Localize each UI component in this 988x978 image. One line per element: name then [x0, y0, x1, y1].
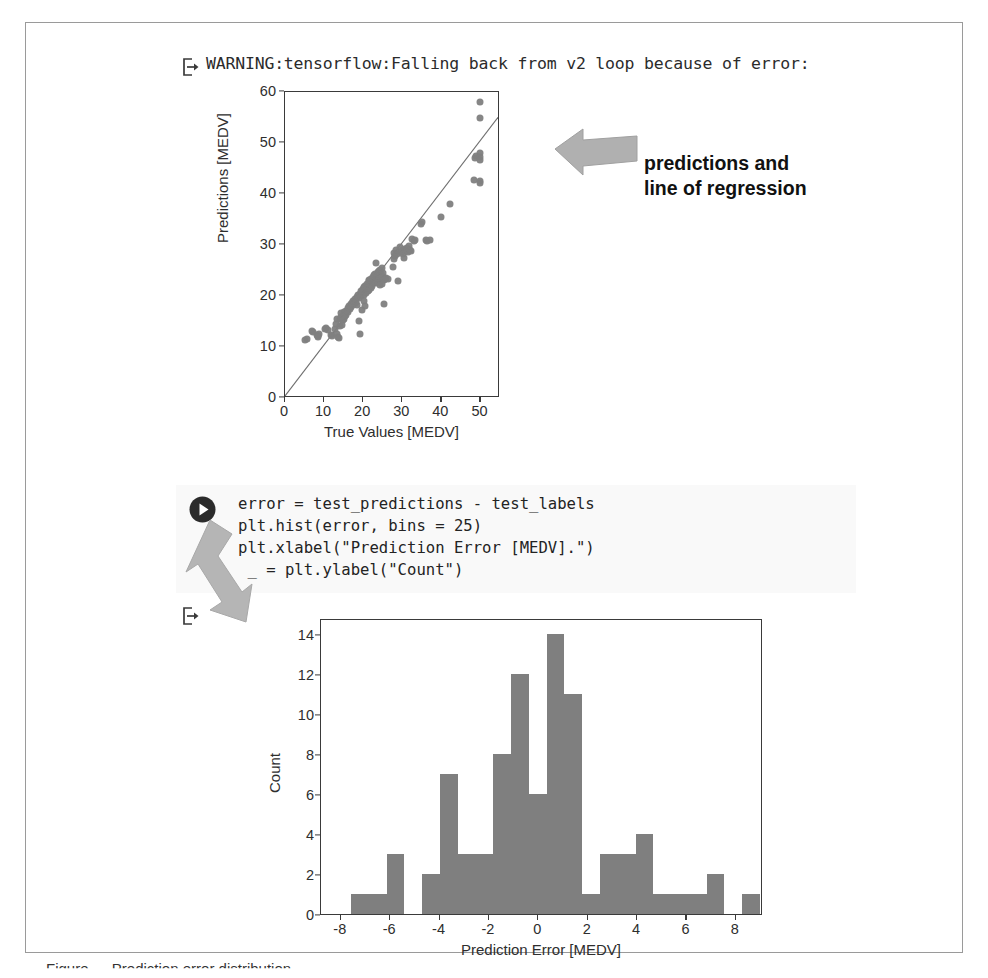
scatter-y-tick-label: 50 [230, 134, 276, 150]
output-arrow-icon [180, 56, 202, 78]
scatter-plot-area [284, 91, 499, 397]
histogram-x-tick-label: 0 [533, 921, 541, 937]
histogram-x-tick-mark [340, 915, 341, 920]
scatter-point [477, 179, 484, 186]
histogram-y-tick-mark [315, 874, 320, 875]
scatter-point [401, 255, 408, 262]
figure-caption: Figure — Prediction error distribution [46, 960, 291, 977]
scatter-x-tick-mark [362, 397, 363, 402]
histogram-x-tick-mark [439, 915, 440, 920]
scatter-x-tick-mark [284, 397, 285, 402]
histogram-x-tick-mark [685, 915, 686, 920]
scatter-point [477, 99, 484, 106]
histogram-bar [671, 894, 689, 914]
scatter-point [380, 301, 387, 308]
scatter-y-tick-label: 40 [230, 185, 276, 201]
scatter-x-tick-mark [323, 397, 324, 402]
scatter-point [447, 201, 454, 208]
histogram-x-tick-mark [636, 915, 637, 920]
histogram-x-tick-mark [488, 915, 489, 920]
scatter-y-tick-mark [279, 90, 284, 91]
scatter-x-tick-label: 50 [471, 403, 487, 419]
scatter-point [355, 317, 362, 324]
scatter-point [389, 264, 396, 271]
histogram-bar [618, 854, 636, 914]
histogram-y-tick-label: 12 [274, 667, 314, 683]
histogram-bar [476, 854, 494, 914]
histogram-y-tick-mark [315, 834, 320, 835]
scatter-x-tick-mark [479, 397, 480, 402]
histogram-bar [582, 894, 600, 914]
scatter-x-tick-label: 30 [393, 403, 409, 419]
scatter-point [385, 276, 392, 283]
histogram-y-tick-mark [315, 714, 320, 715]
scatter-point [419, 219, 426, 226]
scatter-figure: Predictions [MEDV] 0102030405060 0102030… [222, 83, 542, 433]
histogram-x-tick-label: -4 [432, 921, 445, 937]
scatter-point [357, 331, 364, 338]
scatter-x-tick-label: 20 [354, 403, 370, 419]
output-arrow-icon [180, 605, 202, 627]
scatter-x-tick-mark [401, 397, 402, 402]
histogram-y-tick-label: 8 [274, 747, 314, 763]
histogram-bar [440, 774, 458, 914]
figure-page-frame: WARNING:tensorflow:Falling back from v2 … [25, 22, 963, 953]
histogram-x-tick-label: 4 [632, 921, 640, 937]
histogram-x-tick-label: -6 [383, 921, 396, 937]
scatter-point [407, 247, 414, 254]
code-cell-source[interactable]: error = test_predictions - test_labels p… [238, 493, 595, 582]
scatter-x-tick-mark [440, 397, 441, 402]
histogram-x-tick-mark [537, 915, 538, 920]
histogram-x-tick-mark [389, 915, 390, 920]
scatter-x-axis-label: True Values [MEDV] [284, 423, 499, 440]
histogram-x-tick-mark [587, 915, 588, 920]
histogram-x-tick-label: 8 [731, 921, 739, 937]
scatter-y-tick-mark [279, 141, 284, 142]
scatter-point [395, 277, 402, 284]
histogram-x-tick-mark [735, 915, 736, 920]
scatter-y-tick-mark [279, 243, 284, 244]
scatter-point [437, 213, 444, 220]
scatter-point [477, 114, 484, 121]
histogram-bar [422, 874, 440, 914]
histogram-bar [564, 694, 582, 914]
callout-label: predictions and line of regression [644, 151, 807, 201]
histogram-bar [511, 674, 529, 914]
scatter-y-tick-label: 10 [230, 338, 276, 354]
scatter-point [335, 335, 342, 342]
histogram-bar [653, 894, 671, 914]
histogram-y-tick-label: 0 [274, 907, 314, 923]
histogram-y-tick-label: 2 [274, 867, 314, 883]
histogram-bar [387, 854, 405, 914]
scatter-x-tick-label: 40 [432, 403, 448, 419]
histogram-bar [529, 794, 547, 914]
scatter-x-tick-label: 10 [315, 403, 331, 419]
scatter-y-axis-label: Predictions [MEDV] [214, 113, 231, 243]
scatter-y-tick-mark [279, 192, 284, 193]
histogram-bar [742, 894, 760, 914]
histogram-x-tick-label: 6 [681, 921, 689, 937]
histogram-plot-area [320, 619, 762, 915]
histogram-figure: Count 02468101214 -8-6-4-202468 Predicti… [222, 615, 842, 963]
tensorflow-warning-text: WARNING:tensorflow:Falling back from v2 … [206, 54, 810, 73]
scatter-point [303, 336, 310, 343]
scatter-y-tick-label: 0 [230, 389, 276, 405]
histogram-bar [458, 854, 476, 914]
histogram-bar [493, 754, 511, 914]
scatter-y-tick-label: 20 [230, 287, 276, 303]
scatter-point [411, 236, 418, 243]
histogram-bar [689, 894, 707, 914]
histogram-y-tick-mark [315, 634, 320, 635]
histogram-bar [636, 834, 654, 914]
left-arrow-annotation-icon [553, 123, 639, 179]
scatter-point [426, 236, 433, 243]
histogram-x-tick-label: 2 [583, 921, 591, 937]
histogram-x-tick-label: -2 [481, 921, 494, 937]
histogram-bar [351, 894, 369, 914]
scatter-point [361, 303, 368, 310]
scatter-y-tick-label: 30 [230, 236, 276, 252]
histogram-y-tick-label: 4 [274, 827, 314, 843]
histogram-y-tick-mark [315, 914, 320, 915]
histogram-y-tick-mark [315, 754, 320, 755]
histogram-y-tick-label: 14 [274, 627, 314, 643]
